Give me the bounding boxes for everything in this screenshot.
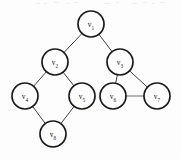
edge-v5-v8 (61, 106, 74, 123)
graph-figure: v1v2v3v4v5v6v7v8 (0, 0, 181, 159)
edge-v2-v5 (63, 72, 74, 86)
edge-layer (33, 33, 148, 123)
edge-v1-v2 (64, 33, 82, 52)
node-v3[interactable]: v3 (107, 49, 133, 75)
edge-v2-v4 (34, 72, 47, 87)
node-v5[interactable]: v5 (69, 83, 95, 109)
node-layer: v1v2v3v4v5v6v7v8 (12, 11, 170, 147)
node-v6[interactable]: v6 (100, 83, 126, 109)
edge-v4-v8 (33, 106, 46, 123)
node-v2[interactable]: v2 (42, 49, 68, 75)
edge-v3-v6 (116, 75, 118, 84)
node-v7[interactable]: v7 (144, 83, 170, 109)
node-v1[interactable]: v1 (78, 11, 104, 37)
edge-v1-v3 (99, 34, 112, 51)
node-v8[interactable]: v8 (40, 121, 66, 147)
node-v4[interactable]: v4 (12, 83, 38, 109)
graph-canvas: v1v2v3v4v5v6v7v8 (0, 0, 181, 159)
edge-v3-v7 (130, 71, 148, 87)
